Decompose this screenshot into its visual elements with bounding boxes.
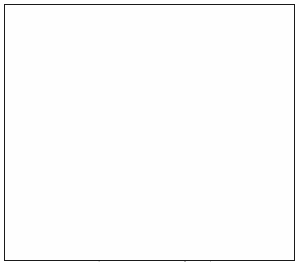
map-frame-border [4,4,295,261]
map-figure: Outline map of the contiguous United Sta… [0,0,299,265]
